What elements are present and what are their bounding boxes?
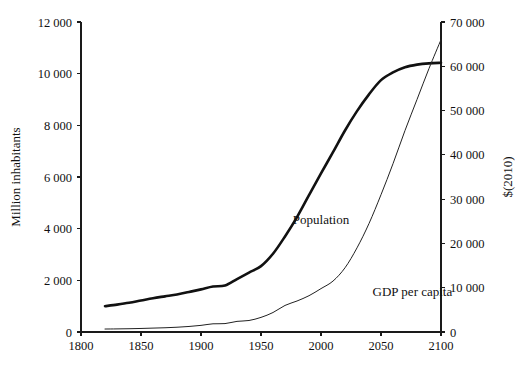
y-axis-right-tick-label: 40 000 bbox=[450, 148, 484, 162]
x-axis-tick-label: 2100 bbox=[429, 339, 454, 353]
axes-group: 02 0004 0006 0008 00010 00012 000010 000… bbox=[8, 16, 515, 354]
x-axis-tick-label: 1900 bbox=[189, 339, 214, 353]
x-axis-tick-label: 1800 bbox=[69, 339, 94, 353]
x-axis-tick-label: 2000 bbox=[309, 339, 334, 353]
series-labels-group: PopulationGDP per capita bbox=[293, 212, 453, 299]
chart-figure: 02 0004 0006 0008 00010 00012 000010 000… bbox=[0, 0, 527, 369]
y-axis-right-tick-label: 60 000 bbox=[450, 60, 484, 74]
y-axis-right-title: $(2010) bbox=[500, 156, 515, 197]
y-axis-left-tick-label: 8 000 bbox=[44, 119, 72, 133]
y-axis-right-tick-label: 50 000 bbox=[450, 104, 484, 118]
x-axis-tick-label: 1950 bbox=[249, 339, 274, 353]
y-axis-left-tick-label: 2 000 bbox=[44, 274, 72, 288]
population-line bbox=[105, 63, 441, 306]
y-axis-left-tick-label: 12 000 bbox=[38, 16, 72, 30]
y-axis-right-tick-label: 10 000 bbox=[450, 281, 484, 295]
y-axis-left-title: Million inhabitants bbox=[8, 127, 23, 226]
y-axis-left-tick-label: 4 000 bbox=[44, 222, 72, 236]
x-axis-tick-label: 1850 bbox=[129, 339, 154, 353]
y-axis-right-tick-label: 30 000 bbox=[450, 193, 484, 207]
y-axis-right-tick-label: 20 000 bbox=[450, 237, 484, 251]
population-gdp-line-chart: 02 0004 0006 0008 00010 00012 000010 000… bbox=[0, 0, 527, 369]
y-axis-left-tick-label: 6 000 bbox=[44, 171, 72, 185]
y-axis-right-tick-label: 0 bbox=[450, 326, 456, 340]
population-label: Population bbox=[293, 212, 350, 227]
y-axis-left-tick-label: 10 000 bbox=[38, 67, 72, 81]
gdp-per-capita-label: GDP per capita bbox=[373, 284, 453, 299]
y-axis-left-tick-label: 0 bbox=[66, 326, 72, 340]
x-axis-tick-label: 2050 bbox=[369, 339, 394, 353]
y-axis-right-tick-label: 70 000 bbox=[450, 16, 484, 30]
